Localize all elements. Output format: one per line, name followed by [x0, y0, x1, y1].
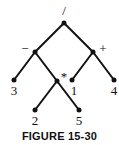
tree-node-leaf3	[12, 78, 17, 83]
node-label-minus: −	[21, 41, 28, 56]
tree-node-leaf1	[70, 78, 75, 83]
tree-node-leaf2	[33, 108, 38, 113]
node-label-leaf5: 5	[76, 113, 83, 128]
node-label-leaf1: 1	[71, 83, 78, 98]
tree-edge	[35, 23, 64, 52]
tree-edge	[14, 52, 35, 80]
tree-node-plus	[91, 50, 96, 55]
tree-node-leaf5	[77, 108, 82, 113]
tree-nodes	[12, 21, 117, 113]
figure-caption: FIGURE 15-30	[0, 130, 119, 142]
node-label-plus: +	[99, 41, 106, 56]
tree-node-times	[55, 79, 60, 84]
tree-node-minus	[33, 50, 38, 55]
tree-edge	[93, 52, 114, 80]
tree-node-root	[62, 21, 67, 26]
node-label-times: *	[61, 69, 68, 84]
tree-node-leaf4	[112, 78, 117, 83]
node-label-leaf2: 2	[32, 113, 39, 128]
tree-edge	[35, 81, 57, 110]
tree-edges	[14, 23, 114, 110]
expression-tree-diagram: /−+3*1425	[0, 0, 119, 145]
node-label-leaf4: 4	[111, 83, 118, 98]
tree-edge	[35, 52, 57, 81]
node-label-leaf3: 3	[11, 83, 18, 98]
tree-edge	[72, 52, 93, 80]
tree-edge	[64, 23, 93, 52]
node-label-root: /	[62, 3, 66, 18]
